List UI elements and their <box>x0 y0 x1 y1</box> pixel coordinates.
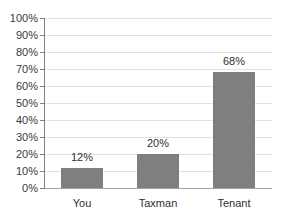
bar-value-label: 20% <box>128 138 188 149</box>
gridline <box>44 69 272 70</box>
y-axis-tick <box>40 120 44 121</box>
bar <box>137 154 179 188</box>
y-axis-tick <box>40 69 44 70</box>
y-axis-tick <box>40 171 44 172</box>
y-axis-tick-label: 90% <box>0 30 38 41</box>
y-axis-tick-label: 40% <box>0 115 38 126</box>
y-axis-tick-label: 20% <box>0 149 38 160</box>
x-axis-category-label: Tenant <box>194 198 274 209</box>
y-axis-line <box>44 18 45 189</box>
bar-value-label: 68% <box>204 56 264 67</box>
y-axis-tick <box>40 154 44 155</box>
y-axis-tick-label: 100% <box>0 13 38 24</box>
bar <box>213 72 255 188</box>
y-axis-tick-label: 30% <box>0 132 38 143</box>
y-axis-tick-label: 10% <box>0 166 38 177</box>
gridline <box>44 52 272 53</box>
y-axis-tick <box>40 103 44 104</box>
y-axis-tick-label: 0% <box>0 183 38 194</box>
y-axis-tick <box>40 18 44 19</box>
y-axis-tick-label: 60% <box>0 81 38 92</box>
x-axis-category-label: Taxman <box>118 198 198 209</box>
x-axis-category-label: You <box>42 198 122 209</box>
y-axis-tick <box>40 86 44 87</box>
bar-value-label: 12% <box>52 152 112 163</box>
y-axis-tick-label: 50% <box>0 98 38 109</box>
y-axis-tick <box>40 35 44 36</box>
y-axis-tick <box>40 188 44 189</box>
bar-chart: 0%10%20%30%40%50%60%70%80%90%100% 12%You… <box>0 0 282 219</box>
y-axis-tick <box>40 52 44 53</box>
y-axis-tick-label: 70% <box>0 64 38 75</box>
y-axis-tick <box>40 137 44 138</box>
bar <box>61 168 103 188</box>
x-axis-baseline <box>44 188 272 189</box>
gridline <box>44 35 272 36</box>
gridline <box>44 18 272 19</box>
y-axis-tick-label: 80% <box>0 47 38 58</box>
